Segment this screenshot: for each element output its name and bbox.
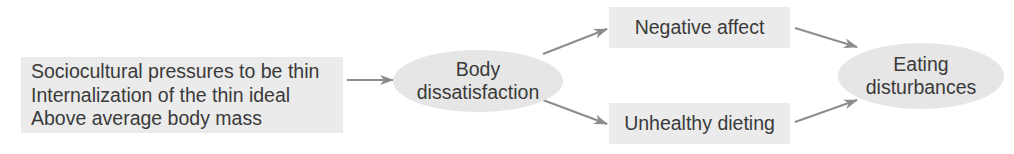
eating-disturbances-line-1: Eating <box>893 53 948 76</box>
eating-disturbances-line-2: disturbances <box>866 76 977 99</box>
unhealthy-dieting-label: Unhealthy dieting <box>624 112 775 135</box>
risk-factors-box: Sociocultural pressures to be thin Inter… <box>21 57 343 133</box>
body-dissatisfaction-node: Body dissatisfaction <box>393 50 563 112</box>
arrow-body-to-negative <box>543 29 607 54</box>
risk-factor-sociocultural: Sociocultural pressures to be thin <box>31 60 343 84</box>
risk-factor-body-mass: Above average body mass <box>31 107 343 131</box>
negative-affect-node: Negative affect <box>609 7 790 48</box>
arrow-body-to-dieting <box>543 100 607 124</box>
body-dissatisfaction-line-1: Body <box>456 58 500 81</box>
eating-disturbances-node: Eating disturbances <box>838 43 1004 109</box>
risk-factor-internalization: Internalization of the thin ideal <box>31 84 343 108</box>
body-dissatisfaction-line-2: dissatisfaction <box>417 81 539 104</box>
arrow-dieting-to-eating <box>795 100 857 122</box>
arrow-negative-to-eating <box>795 28 857 47</box>
unhealthy-dieting-node: Unhealthy dieting <box>609 103 790 144</box>
negative-affect-label: Negative affect <box>635 16 765 39</box>
